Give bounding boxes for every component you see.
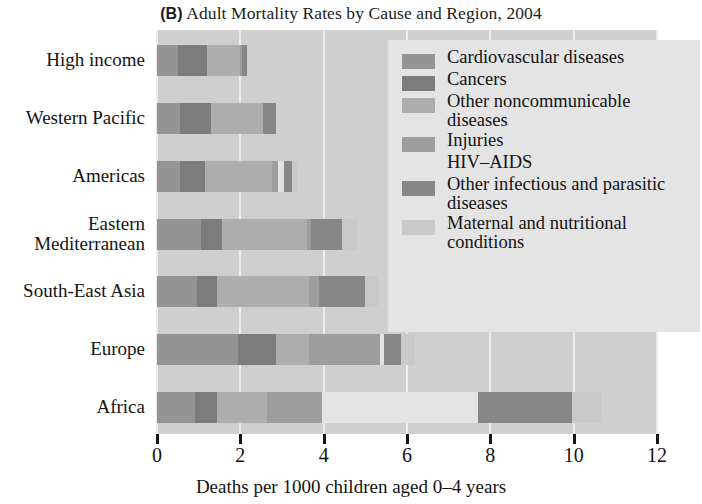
x-axis-ticks: [157, 434, 657, 444]
legend-item: Other noncommunicable diseases: [402, 92, 694, 130]
legend-label: Cardiovascular diseases: [447, 48, 624, 67]
legend-swatch-icon: [402, 181, 435, 196]
legend-label: Cancers: [447, 70, 507, 89]
legend-item: Other infectious and parasitic diseases: [402, 175, 694, 213]
chart-title-text: Adult Mortality Rates by Cause and Regio…: [186, 3, 542, 23]
bar-segment: [222, 219, 307, 250]
bar-row: [157, 334, 415, 365]
bar-segment: [157, 45, 178, 76]
bar-segment: [276, 334, 309, 365]
bar-segment: [180, 161, 205, 192]
legend-item: Cancers: [402, 70, 694, 91]
legend-label: Other noncommunicable diseases: [447, 92, 694, 130]
bar-segment: [157, 392, 195, 423]
bar-segment: [180, 103, 211, 134]
x-tick-0: [156, 434, 159, 444]
x-tick-label-8: 8: [465, 444, 515, 467]
bar-segment: [201, 219, 222, 250]
bar-row: [157, 161, 297, 192]
bar-segment: [238, 334, 276, 365]
bar-row: [157, 103, 276, 134]
legend-label: Maternal and nutritional conditions: [447, 214, 694, 252]
bar-segment: [217, 276, 309, 307]
x-tick-6: [406, 434, 409, 444]
x-tick-label-2: 2: [215, 444, 265, 467]
bar-segment: [178, 45, 207, 76]
x-tick-label-4: 4: [299, 444, 349, 467]
bar-segment: [309, 334, 380, 365]
bar-segment: [309, 276, 319, 307]
bar-segment: [217, 392, 267, 423]
y-axis-label-western-pacific: Western Pacific: [0, 108, 152, 128]
legend-swatch-icon: [402, 54, 435, 69]
y-axis-label-south-east-asia: South-East Asia: [0, 281, 152, 301]
legend-item: Maternal and nutritional conditions: [402, 214, 694, 252]
legend-item: Injuries: [402, 131, 694, 152]
bar-row: [157, 45, 247, 76]
bar-segment: [401, 334, 416, 365]
bar-segment: [478, 392, 572, 423]
panel-letter: (B): [160, 5, 183, 22]
bar-row: [157, 392, 601, 423]
legend-swatch-icon: [402, 137, 435, 152]
y-axis-label-high-income: High income: [0, 50, 152, 70]
x-tick-2: [239, 434, 242, 444]
legend-swatch-icon: [402, 159, 435, 174]
x-tick-4: [323, 434, 326, 444]
bar-segment: [263, 103, 276, 134]
bar-segment: [384, 334, 401, 365]
legend-label: HIV–AIDS: [447, 153, 532, 172]
legend-swatch-icon: [402, 76, 435, 91]
x-axis-title: Deaths per 1000 children aged 0–4 years: [0, 476, 702, 498]
x-tick-label-6: 6: [382, 444, 432, 467]
bar-segment: [207, 45, 240, 76]
legend-label: Injuries: [447, 131, 504, 150]
bar-segment: [205, 161, 272, 192]
bar-segment: [157, 276, 197, 307]
bar-segment: [197, 276, 218, 307]
legend-item: HIV–AIDS: [402, 153, 694, 174]
y-axis-label-africa: Africa: [0, 397, 152, 417]
legend: Cardiovascular diseasesCancersOther nonc…: [388, 40, 700, 332]
bar-segment: [322, 392, 478, 423]
bar-segment: [157, 219, 201, 250]
bar-segment: [211, 103, 263, 134]
bar-segment: [157, 103, 180, 134]
legend-swatch-icon: [402, 220, 435, 235]
bar-segment: [572, 392, 601, 423]
chart-title: (B) Adult Mortality Rates by Cause and R…: [0, 3, 702, 24]
x-tick-label-12: 12: [632, 444, 682, 467]
x-tick-8: [489, 434, 492, 444]
y-axis-label-europe: Europe: [0, 339, 152, 359]
bar-segment: [365, 276, 378, 307]
bar-segment: [242, 45, 246, 76]
bar-segment: [311, 219, 342, 250]
bar-row: [157, 276, 378, 307]
y-axis-label-americas: Americas: [0, 166, 152, 186]
legend-label: Other infectious and parasitic diseases: [447, 175, 694, 213]
x-tick-label-10: 10: [549, 444, 599, 467]
bar-segment: [195, 392, 218, 423]
bar-segment: [342, 219, 357, 250]
bar-segment: [157, 334, 238, 365]
x-axis-tick-labels: 024681012: [0, 444, 702, 472]
bar-segment: [267, 392, 321, 423]
bar-row: [157, 219, 357, 250]
x-tick-10: [573, 434, 576, 444]
legend-item: Cardiovascular diseases: [402, 48, 694, 69]
x-tick-label-0: 0: [132, 444, 182, 467]
bar-segment: [319, 276, 365, 307]
y-axis-label-eastern-mediterranean: EasternMediterranean: [0, 214, 152, 254]
x-tick-12: [656, 434, 659, 444]
bar-segment: [157, 161, 180, 192]
bar-segment: [292, 161, 296, 192]
bar-segment: [284, 161, 292, 192]
legend-swatch-icon: [402, 98, 435, 113]
